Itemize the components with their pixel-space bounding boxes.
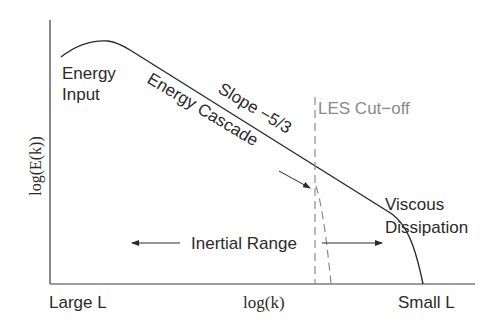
y-axis-label: log(E(k))	[27, 136, 45, 196]
x-axis-label: log(k)	[243, 293, 285, 312]
x-right-label: Small L	[398, 293, 455, 312]
energy-input-label-line2: Input	[62, 85, 100, 104]
inertial-range-label: Inertial Range	[191, 234, 297, 253]
viscous-label-line2: Dissipation	[385, 218, 468, 237]
filtered-spectrum-dashed-curve	[316, 186, 331, 283]
energy-input-label-line1: Energy	[62, 64, 116, 83]
x-left-label: Large L	[49, 293, 107, 312]
energy-spectrum-diagram: Energy Input Energy Cascade Slope −5/3 L…	[0, 0, 499, 328]
les-cutoff-label: LES Cut−off	[318, 99, 410, 118]
cascade-arrow-icon	[279, 171, 310, 188]
viscous-label-line1: Viscous	[385, 195, 444, 214]
